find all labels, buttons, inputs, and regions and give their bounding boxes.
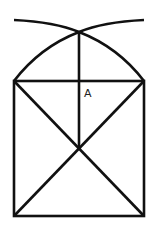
construction-diagram: A <box>0 0 154 248</box>
point-a-label: A <box>84 87 92 100</box>
